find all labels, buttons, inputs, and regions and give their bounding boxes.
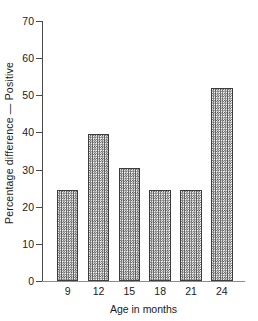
y-tick-label: 60 bbox=[4, 53, 34, 64]
y-tick-mark bbox=[36, 95, 42, 96]
y-tick-mark bbox=[36, 244, 42, 245]
x-tick-label: 21 bbox=[185, 286, 197, 297]
y-tick-mark bbox=[36, 207, 42, 208]
x-tick-label: 15 bbox=[124, 286, 136, 297]
y-axis-title-text: Percentage difference — Positive bbox=[3, 61, 15, 223]
bar-slot bbox=[57, 21, 79, 281]
x-tick-label: 18 bbox=[154, 286, 166, 297]
y-tick-label: 0 bbox=[4, 276, 34, 287]
y-tick-mark bbox=[36, 281, 42, 282]
y-tick-mark bbox=[36, 170, 42, 171]
bar bbox=[119, 168, 141, 281]
bar-slot bbox=[88, 21, 110, 281]
y-tick-label: 30 bbox=[4, 164, 34, 175]
x-tick-label: 9 bbox=[65, 286, 71, 297]
bar bbox=[180, 190, 202, 281]
bar-chart: Percentage difference — Positive 0102030… bbox=[0, 0, 258, 321]
x-tick-label: 24 bbox=[216, 286, 228, 297]
bar-slot bbox=[211, 21, 233, 281]
plot-area bbox=[43, 21, 245, 281]
x-tick-label: 12 bbox=[93, 286, 105, 297]
y-tick-label: 50 bbox=[4, 90, 34, 101]
y-tick-label: 40 bbox=[4, 127, 34, 138]
bar bbox=[211, 88, 233, 281]
y-tick-mark bbox=[36, 132, 42, 133]
bar bbox=[88, 134, 110, 281]
y-tick-mark bbox=[36, 21, 42, 22]
bar-slot bbox=[119, 21, 141, 281]
x-axis-title: Age in months bbox=[42, 303, 245, 315]
y-tick-label: 20 bbox=[4, 201, 34, 212]
bar-slot bbox=[149, 21, 171, 281]
y-tick-label: 70 bbox=[4, 16, 34, 27]
x-axis-line bbox=[42, 281, 245, 282]
bar bbox=[149, 190, 171, 281]
bar bbox=[57, 190, 79, 281]
y-tick-label: 10 bbox=[4, 239, 34, 250]
y-tick-mark bbox=[36, 58, 42, 59]
bar-slot bbox=[180, 21, 202, 281]
